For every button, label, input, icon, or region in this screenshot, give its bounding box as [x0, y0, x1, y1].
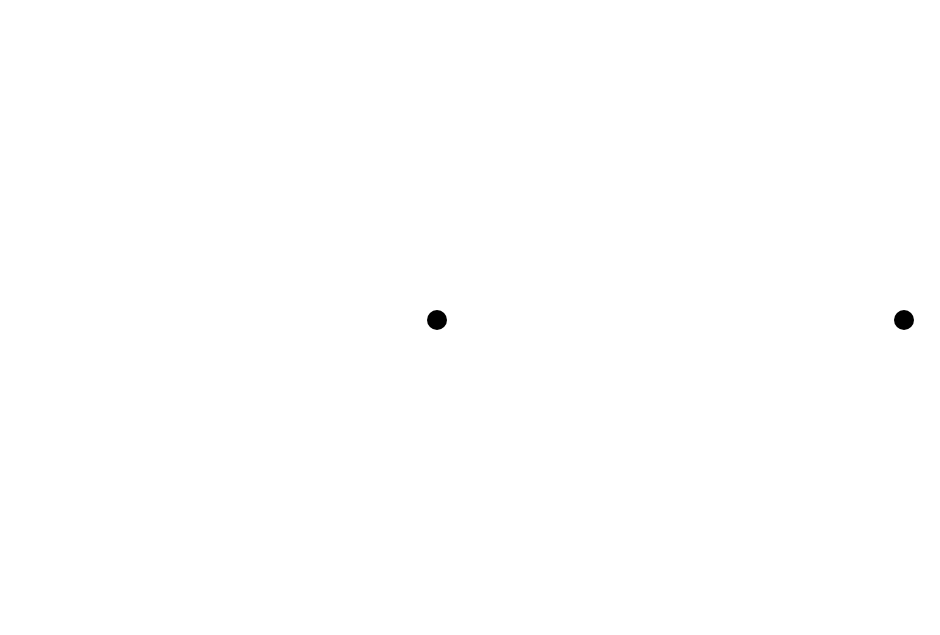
- blank-canvas: [0, 0, 940, 635]
- dot-marker-left: [427, 310, 447, 330]
- dot-marker-right: [894, 310, 914, 330]
